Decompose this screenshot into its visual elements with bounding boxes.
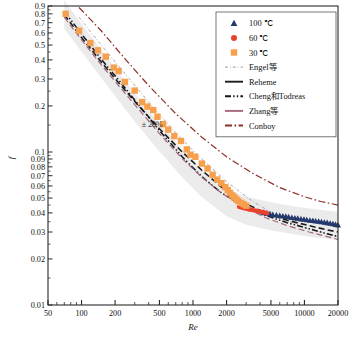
x-tick-label: 1000 xyxy=(185,309,201,318)
x-tick-label: 500 xyxy=(153,309,165,318)
x-tick-label: 100 xyxy=(75,309,87,318)
y-tick-label: 0.03 xyxy=(31,228,45,237)
data-point xyxy=(171,133,177,139)
x-tick-label: 10000 xyxy=(294,309,314,318)
x-tick-label: 50 xyxy=(44,309,52,318)
data-point xyxy=(132,87,138,93)
legend-box xyxy=(216,12,336,137)
legend-label: Cheng和Todreas xyxy=(249,92,305,101)
data-point xyxy=(95,47,101,53)
x-tick-label: 2000 xyxy=(218,309,234,318)
y-tick-label: 0.2 xyxy=(35,102,45,111)
legend-label: Conboy xyxy=(249,122,276,131)
data-point xyxy=(199,160,205,166)
data-point xyxy=(204,165,210,171)
annotations-layer: ± 20% xyxy=(142,120,163,129)
y-tick-label: 0.07 xyxy=(31,172,45,181)
y-tick-label: 0.04 xyxy=(31,209,45,218)
data-point xyxy=(243,202,249,208)
y-tick-label: 0.1 xyxy=(35,148,45,157)
y-tick-label: 0.8 xyxy=(35,10,45,19)
y-tick-label: 0.02 xyxy=(31,255,45,264)
data-point xyxy=(103,53,109,59)
legend: 100 ℃60 ℃30 ℃Engel等RehemeCheng和TodreasZh… xyxy=(216,12,336,137)
data-point xyxy=(165,126,171,132)
legend-circle-marker xyxy=(231,35,237,41)
x-tick-label: 200 xyxy=(109,309,121,318)
data-point xyxy=(87,40,93,46)
legend-label: Reheme xyxy=(249,78,277,87)
x-tick-label: 5000 xyxy=(263,309,279,318)
legend-label: 30 ℃ xyxy=(249,49,268,58)
y-tick-label: 0.6 xyxy=(35,29,45,38)
y-tick-label: 0.5 xyxy=(35,41,45,50)
data-point xyxy=(150,107,156,113)
friction-factor-chart: 0.010.020.030.040.050.060.070.080.090.10… xyxy=(0,0,354,338)
data-point xyxy=(115,68,121,74)
y-tick-label: 0.01 xyxy=(31,301,45,310)
y-tick-label: 0.9 xyxy=(35,2,45,11)
data-point xyxy=(264,211,269,216)
legend-square-marker xyxy=(231,49,237,55)
data-point xyxy=(192,154,198,160)
legend-label: 60 ℃ xyxy=(249,34,268,43)
chart-root: 0.010.020.030.040.050.060.070.080.090.10… xyxy=(0,0,354,338)
y-tick-label: 0.7 xyxy=(35,19,45,28)
y-tick-label: 0.3 xyxy=(35,75,45,84)
y-tick-label: 0.05 xyxy=(31,194,45,203)
y-axis-title: f xyxy=(6,155,16,159)
legend-label: Engel等 xyxy=(249,62,277,72)
data-point xyxy=(154,114,160,120)
data-point xyxy=(144,103,150,109)
data-point xyxy=(122,79,128,85)
legend-label: 100 ℃ xyxy=(249,19,273,28)
y-tick-label: 0.08 xyxy=(31,163,45,172)
x-axis-title: Re xyxy=(187,322,198,332)
y-tick-label: 0.4 xyxy=(35,56,45,65)
legend-label: Zhang等 xyxy=(249,106,278,116)
y-tick-label: 0.06 xyxy=(31,182,45,191)
data-point xyxy=(178,138,184,144)
data-point xyxy=(62,11,68,17)
data-point xyxy=(76,28,82,34)
annotation-tolerance: ± 20% xyxy=(142,120,163,129)
x-tick-label: 20000 xyxy=(328,309,348,318)
